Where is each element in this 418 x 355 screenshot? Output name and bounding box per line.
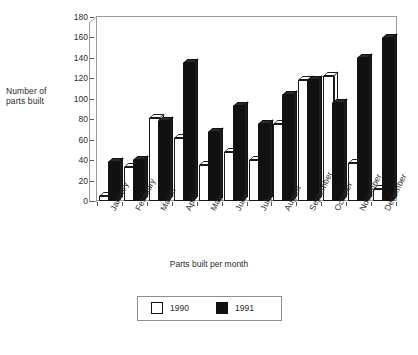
x-axis-tick-mark bbox=[271, 202, 272, 206]
x-axis-tick-mark bbox=[122, 202, 123, 206]
y-axis-tick-mark bbox=[90, 37, 94, 38]
x-axis-tick-mark-end bbox=[396, 202, 397, 206]
x-axis-tick-mark bbox=[371, 202, 372, 206]
bar-group bbox=[172, 17, 197, 201]
legend-label-1991: 1991 bbox=[235, 303, 254, 313]
bar-1991-september bbox=[307, 80, 318, 201]
legend-entry-1990: 1990 bbox=[151, 302, 189, 314]
bar-group bbox=[122, 17, 147, 201]
bar-group bbox=[247, 17, 272, 201]
bar-front-face bbox=[183, 63, 194, 201]
x-axis-tick-mark bbox=[97, 202, 98, 206]
bar-group bbox=[222, 17, 247, 201]
x-axis-tick-mark bbox=[247, 202, 248, 206]
bar-group bbox=[97, 17, 122, 201]
y-axis-tick-label: 100 bbox=[62, 94, 88, 104]
bar-front-face bbox=[258, 124, 269, 201]
x-axis-tick-mark bbox=[197, 202, 198, 206]
y-axis-tick-mark bbox=[90, 99, 94, 100]
bar-front-face bbox=[208, 132, 219, 202]
y-axis-tick-mark bbox=[90, 201, 94, 202]
x-axis-tick-mark bbox=[147, 202, 148, 206]
x-axis-tick-mark bbox=[222, 202, 223, 206]
legend: 1990 1991 bbox=[137, 296, 282, 321]
bar-group bbox=[271, 17, 296, 201]
y-axis-tick-label: 180 bbox=[62, 12, 88, 22]
bar-group bbox=[197, 17, 222, 201]
y-axis-tick-label: 20 bbox=[62, 176, 88, 186]
y-axis-tick-label: 0 bbox=[62, 196, 88, 206]
y-axis-tick-mark bbox=[90, 181, 94, 182]
y-axis-tick-mark bbox=[90, 160, 94, 161]
bar-front-face bbox=[357, 58, 368, 201]
y-axis-tick-label: 160 bbox=[62, 32, 88, 42]
bar-front-face bbox=[233, 106, 244, 201]
bar-1991-june bbox=[233, 106, 244, 201]
y-axis-tick-mark bbox=[90, 17, 94, 18]
y-axis-tick-label: 140 bbox=[62, 53, 88, 63]
bar-chart: Number of parts built 020406080100120140… bbox=[0, 0, 418, 355]
x-axis-tick-mark bbox=[346, 202, 347, 206]
y-axis-tick-mark bbox=[90, 140, 94, 141]
bar-group bbox=[346, 17, 371, 201]
x-axis-tick-mark bbox=[172, 202, 173, 206]
y-axis-tick-label: 60 bbox=[62, 135, 88, 145]
bar-1991-november bbox=[357, 58, 368, 201]
y-axis-tick-label: 120 bbox=[62, 73, 88, 83]
bar-group bbox=[296, 17, 321, 201]
legend-swatch-white-square bbox=[151, 302, 163, 314]
legend-swatch-black-square bbox=[216, 302, 228, 314]
legend-entry-1991: 1991 bbox=[216, 302, 254, 314]
x-axis-tick-mark bbox=[321, 202, 322, 206]
bar-1991-may bbox=[208, 132, 219, 202]
legend-label-1990: 1990 bbox=[170, 303, 189, 313]
bar-front-face bbox=[382, 38, 393, 201]
bar-group bbox=[147, 17, 172, 201]
bar-front-face bbox=[307, 80, 318, 201]
plot-area bbox=[97, 17, 396, 201]
x-axis-tick-mark bbox=[296, 202, 297, 206]
x-axis-title: Parts built per month bbox=[0, 259, 418, 269]
y-axis-tick-mark bbox=[90, 58, 94, 59]
y-axis-tick-label: 80 bbox=[62, 114, 88, 124]
bar-1991-july bbox=[258, 124, 269, 201]
y-axis-tick-mark bbox=[90, 119, 94, 120]
bar-1991-april bbox=[183, 63, 194, 201]
bar-1991-december bbox=[382, 38, 393, 201]
y-axis-tick-mark bbox=[90, 78, 94, 79]
y-axis-tick-label: 40 bbox=[62, 155, 88, 165]
